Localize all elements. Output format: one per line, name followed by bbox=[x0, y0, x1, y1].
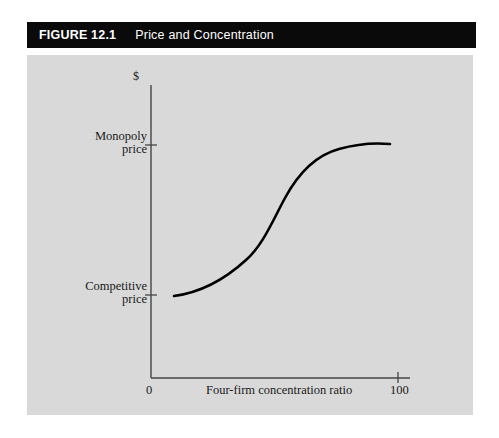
y-label-competitive-price: Competitive price bbox=[53, 280, 147, 306]
chart-panel: $ Monopoly price Competitive price 0 Fou… bbox=[27, 55, 473, 415]
figure-title: Price and Concentration bbox=[135, 28, 274, 42]
chart-plot-area bbox=[27, 55, 473, 415]
x-axis-title: Four-firm concentration ratio bbox=[206, 384, 352, 397]
y-label-competitive-line2: price bbox=[53, 293, 147, 306]
figure-header-bar: FIGURE 12.1 Price and Concentration bbox=[27, 22, 476, 48]
figure-number: FIGURE 12.1 bbox=[39, 28, 116, 42]
x-tick-label-100: 100 bbox=[390, 384, 409, 397]
y-label-monopoly-price: Monopoly price bbox=[57, 130, 147, 156]
y-axis-currency-label: $ bbox=[133, 70, 139, 83]
figure-page: FIGURE 12.1 Price and Concentration $ Mo… bbox=[0, 0, 499, 438]
x-tick-label-0: 0 bbox=[146, 384, 152, 397]
y-label-monopoly-line2: price bbox=[57, 143, 147, 156]
price-concentration-curve bbox=[174, 144, 390, 296]
